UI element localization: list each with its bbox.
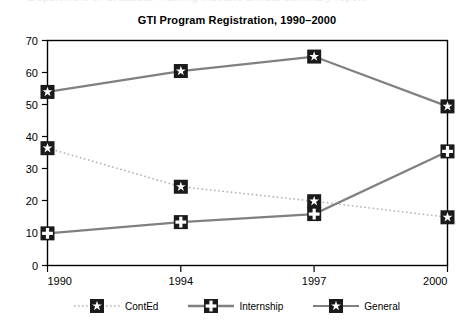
data-point-internship-1990[interactable] (41, 226, 55, 240)
data-point-internship-2000[interactable] (441, 144, 455, 158)
x-tick-label: 1997 (302, 275, 326, 287)
x-tick-label: 1994 (169, 275, 193, 287)
y-tick-label: 20 (26, 195, 38, 207)
plot-frame (48, 41, 448, 266)
legend-label-internship: Internship (239, 301, 283, 312)
chart-legend: ContEd Internship General (0, 299, 474, 313)
data-point-general-1994[interactable] (174, 64, 188, 78)
plus-icon (204, 299, 218, 313)
y-tick-label: 0 (32, 260, 38, 272)
series-line-conted (48, 148, 448, 217)
y-tick-label: 40 (26, 131, 38, 143)
y-tick-label: 70 (26, 35, 38, 47)
legend-item-general[interactable]: General (313, 299, 400, 313)
data-point-general-2000[interactable] (441, 99, 455, 113)
x-axis-labels: 1990 1994 1997 2000 (48, 275, 448, 287)
data-point-conted-2000[interactable] (441, 210, 455, 224)
data-point-general-1997[interactable] (307, 50, 321, 64)
y-tick-label: 10 (26, 227, 38, 239)
y-tick-label: 30 (26, 163, 38, 175)
line-chart: 70 60 50 40 30 20 10 0 1990 1994 1997 20… (0, 0, 474, 324)
star-icon (90, 299, 104, 313)
data-point-general-1990[interactable] (41, 85, 55, 99)
data-point-internship-1997[interactable] (307, 207, 321, 221)
legend-swatch-general (313, 299, 359, 313)
legend-swatch-conted (74, 299, 120, 313)
legend-label-general: General (364, 301, 400, 312)
x-tick-label: 1990 (48, 275, 72, 287)
series-line-general (48, 57, 448, 107)
legend-swatch-internship (188, 299, 234, 313)
legend-label-conted: ContEd (125, 301, 158, 312)
data-point-conted-1994[interactable] (174, 180, 188, 194)
series-lines (48, 57, 448, 234)
x-axis-ticks (48, 266, 448, 273)
series-line-internship (48, 151, 448, 233)
y-axis-labels: 70 60 50 40 30 20 10 0 (26, 35, 38, 272)
data-point-conted-1990[interactable] (41, 141, 55, 155)
data-point-internship-1994[interactable] (174, 215, 188, 229)
y-tick-label: 50 (26, 99, 38, 111)
y-tick-label: 60 (26, 67, 38, 79)
data-point-conted-1997[interactable] (307, 194, 321, 208)
x-tick-label: 2000 (423, 275, 447, 287)
legend-item-conted[interactable]: ContEd (74, 299, 158, 313)
star-icon (329, 299, 343, 313)
series-markers (41, 50, 455, 241)
legend-item-internship[interactable]: Internship (188, 299, 283, 313)
